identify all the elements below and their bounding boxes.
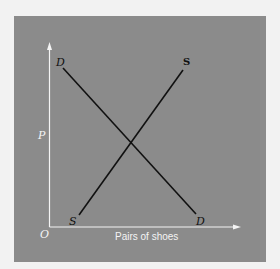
y-axis-arrow-icon — [47, 42, 52, 50]
demand-label-top: D — [55, 56, 65, 69]
supply-demand-diagram: D D S S P O Pairs of shoes — [0, 0, 280, 269]
supply-label-top: S — [183, 56, 190, 67]
price-axis-label: P — [37, 129, 46, 142]
x-axis-arrow-icon — [233, 225, 241, 230]
demand-label-bottom: D — [195, 215, 205, 228]
supply-label-bottom: S — [69, 215, 77, 228]
supply-curve — [79, 70, 183, 215]
origin-label: O — [40, 228, 49, 241]
demand-curve — [63, 68, 196, 214]
quantity-axis-label: Pairs of shoes — [115, 231, 178, 242]
